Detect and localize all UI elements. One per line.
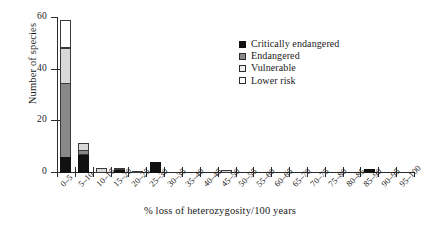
bar-0-5 <box>60 17 71 172</box>
legend-item-label: Vulnerable <box>251 62 296 74</box>
legend-item-label: Endangered <box>251 50 300 62</box>
chart-legend: Critically endangeredEndangeredVulnerabl… <box>239 38 339 87</box>
bar-group <box>57 17 414 172</box>
light-gray-square-icon <box>239 65 246 72</box>
legend-item: Lower risk <box>239 75 339 87</box>
y-axis-title: Number of species <box>27 0 38 144</box>
legend-item: Critically endangered <box>239 38 339 50</box>
bar-segment-endg <box>60 83 71 158</box>
x-tick-mark-inner <box>93 167 94 172</box>
chart-figure: Number of species 6040200 0–55–1010–1515… <box>0 0 440 229</box>
bar-segment-vuln <box>60 48 71 84</box>
white-square-icon <box>239 77 246 84</box>
bar-segment-crit <box>60 157 71 173</box>
bar-segment-lowr <box>60 20 71 48</box>
plot-area <box>57 17 414 172</box>
x-tick-mark <box>75 172 76 177</box>
x-axis-title: % loss of heterozygosity/100 years <box>0 205 440 216</box>
dark-gray-square-icon <box>239 53 246 60</box>
y-tick-label: 0 <box>42 167 47 177</box>
x-tick-label: 0–5 <box>59 173 75 189</box>
legend-item: Vulnerable <box>239 62 339 74</box>
y-tick-label: 40 <box>37 64 47 74</box>
y-tick-label: 20 <box>37 115 47 125</box>
legend-item-label: Lower risk <box>251 75 296 87</box>
x-tick-mark-inner <box>75 167 76 172</box>
x-tick-mark <box>57 172 58 177</box>
y-tick-label: 60 <box>37 12 47 22</box>
legend-item-label: Critically endangered <box>251 38 339 50</box>
bar-5-10 <box>78 141 89 172</box>
black-square-icon <box>239 41 246 48</box>
legend-item: Endangered <box>239 50 339 62</box>
